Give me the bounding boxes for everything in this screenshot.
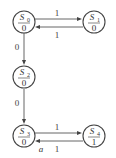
svg-text:4: 4 <box>97 131 100 137</box>
arrowhead-icon <box>35 25 40 29</box>
svg-text:0: 0 <box>22 78 27 88</box>
svg-text:S: S <box>20 67 25 77</box>
svg-text:0: 0 <box>22 23 27 33</box>
svg-text:0: 0 <box>92 23 97 33</box>
state-s3: S 3 0 <box>13 125 35 147</box>
arrowhead-icon <box>22 119 26 124</box>
svg-text:S: S <box>90 126 95 136</box>
svg-text:0: 0 <box>27 17 30 23</box>
svg-text:S: S <box>90 12 95 22</box>
edge-label-s2-s3: 0 <box>15 98 20 108</box>
state-s2: S 2 0 <box>13 66 35 88</box>
svg-text:0: 0 <box>22 137 27 147</box>
state-diagram: 1 1 0 0 1 1 a S 0 0 S 1 0 S 2 0 S 3 <box>0 0 116 158</box>
state-s1: S 1 0 <box>83 11 105 33</box>
svg-text:3: 3 <box>27 131 30 137</box>
state-s4: S 4 1 <box>83 125 105 147</box>
svg-text:1: 1 <box>92 137 97 147</box>
svg-text:S: S <box>20 12 25 22</box>
arrowhead-icon <box>77 131 82 135</box>
svg-text:S: S <box>20 126 25 136</box>
svg-text:2: 2 <box>27 72 30 78</box>
edge-label-s0-s2: 0 <box>15 42 20 52</box>
state-s0: S 0 0 <box>13 11 35 33</box>
arrowhead-icon <box>77 17 82 21</box>
edge-label-s0-s1: 1 <box>55 8 60 18</box>
edge-label-s1-s0: 1 <box>55 30 60 40</box>
svg-text:1: 1 <box>97 17 100 23</box>
arrowhead-icon <box>35 139 40 143</box>
edge-label-s3-s4: 1 <box>55 122 60 132</box>
arrowhead-icon <box>22 60 26 65</box>
edge-label-s4-s3: 1 <box>55 144 60 154</box>
caption-label: a <box>39 144 44 154</box>
